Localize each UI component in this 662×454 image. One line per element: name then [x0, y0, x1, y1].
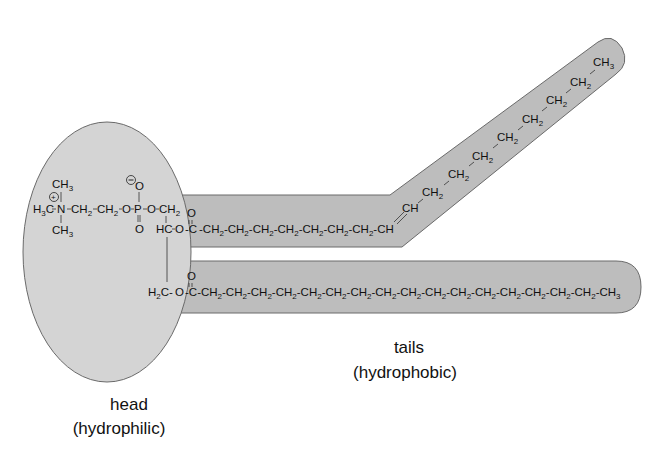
head-sublabel: (hydrophilic): [73, 419, 166, 438]
upper-carbonyl-o: O: [187, 207, 196, 219]
nitrogen-atom: N: [57, 203, 65, 215]
head-ellipse: [23, 122, 191, 382]
ester-oxygen-1: O: [122, 203, 131, 215]
ester-oxygen-2: O: [147, 203, 156, 215]
phosphate-o-bottom: O: [135, 223, 144, 235]
svg-text:+: +: [51, 193, 56, 202]
svg-text:-C: -C: [185, 223, 197, 235]
tails-sublabel: (hydrophobic): [353, 363, 457, 382]
phospholipid-diagram: CH3 CH3 H3C N + CH2 CH2 O P O O O CH2 HC: [0, 0, 662, 454]
tails-label: tails: [394, 338, 424, 357]
glycerol-o3: O: [175, 286, 184, 298]
lower-carbonyl-o: O: [187, 270, 196, 282]
upper-tail-shape: [170, 38, 625, 247]
phosphorus-atom: P: [134, 203, 142, 215]
svg-text:CH: CH: [402, 202, 419, 214]
head-label: head: [110, 395, 148, 414]
phosphate-o-top: O: [135, 180, 144, 192]
glycerol-o2: O: [175, 223, 184, 235]
glycerol-c2: HC: [156, 223, 173, 235]
